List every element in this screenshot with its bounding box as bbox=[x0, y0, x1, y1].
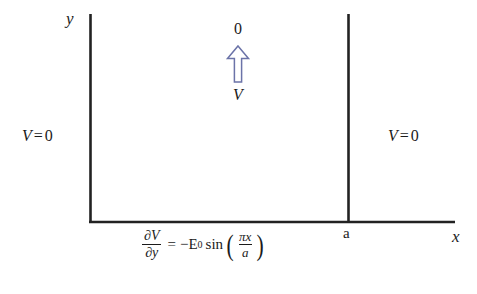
boundary-condition-equation: ∂V ∂y = −E0 sin ( πx a ) bbox=[140, 229, 265, 260]
right-boundary-value: 0 bbox=[411, 127, 419, 144]
potential-boundary-value-figure: y x a V=0 V=0 0 V ∂V ∂y = −E0 sin ( πx a… bbox=[0, 0, 477, 294]
sine-argument-fraction: πx a bbox=[236, 230, 254, 259]
left-boundary-equals: = bbox=[32, 127, 45, 144]
potential-direction-annotation: 0 V bbox=[208, 20, 268, 120]
arrow-top-value-label: 0 bbox=[208, 20, 268, 38]
up-arrow-icon bbox=[223, 44, 253, 84]
left-boundary-value: 0 bbox=[45, 127, 53, 144]
x-axis-label: x bbox=[452, 228, 460, 245]
sine-argument-numerator: πx bbox=[236, 230, 254, 244]
left-boundary-condition-label: V=0 bbox=[22, 128, 53, 144]
y-axis-label: y bbox=[66, 10, 74, 27]
equation-sine-function: sin bbox=[206, 237, 224, 252]
right-boundary-symbol: V bbox=[388, 127, 398, 144]
equation-open-paren: ( bbox=[227, 233, 234, 256]
equation-equals-sign: = bbox=[167, 237, 175, 252]
equation-lhs-denominator: ∂y bbox=[142, 244, 161, 260]
equation-close-paren: ) bbox=[257, 233, 264, 256]
equation-lhs-numerator: ∂V bbox=[141, 229, 162, 244]
left-boundary-symbol: V bbox=[22, 127, 32, 144]
equation-amplitude-subscript: 0 bbox=[198, 240, 203, 250]
arrow-bottom-symbol-label: V bbox=[208, 86, 268, 104]
right-boundary-condition-label: V=0 bbox=[388, 128, 419, 144]
sine-argument-denominator: a bbox=[239, 244, 252, 259]
right-boundary-equals: = bbox=[398, 127, 411, 144]
equation-amplitude-symbol: E bbox=[188, 237, 197, 252]
partial-derivative-fraction: ∂V ∂y bbox=[141, 229, 162, 260]
equation-rhs-sign: − bbox=[180, 237, 188, 252]
x-axis-tick-label-a: a bbox=[343, 226, 350, 241]
